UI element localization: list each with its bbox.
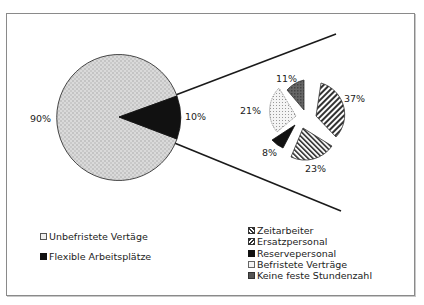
legend-label: Keine feste Stundenzahl bbox=[257, 270, 372, 281]
label-90: 90% bbox=[30, 113, 51, 124]
swatch-icon bbox=[248, 227, 255, 234]
label-11: 11% bbox=[276, 73, 297, 84]
legend-item-befristete: Befristete Verträge bbox=[248, 259, 372, 270]
legend-item-unbefristete: Unbefristete Vertäge bbox=[40, 231, 151, 242]
legend-label: Befristete Verträge bbox=[257, 259, 347, 270]
label-21: 21% bbox=[240, 105, 261, 116]
swatch-icon bbox=[40, 253, 47, 260]
legend-label: Flexible Arbeitsplätze bbox=[49, 251, 151, 262]
legend-item-zeitarbeiter: Zeitarbeiter bbox=[248, 225, 372, 236]
swatch-icon bbox=[40, 233, 47, 240]
legend-item-ersatzpersonal: Ersatzpersonal bbox=[248, 236, 372, 247]
detail-pie bbox=[270, 80, 345, 160]
swatch-icon bbox=[248, 261, 255, 268]
swatch-icon bbox=[248, 250, 255, 257]
connector-line-upper bbox=[173, 34, 336, 96]
legend-label: Reservepersonal bbox=[257, 248, 336, 259]
slice-zeitarbeiter bbox=[316, 83, 345, 137]
label-23: 23% bbox=[305, 163, 326, 174]
legend-label: Zeitarbeiter bbox=[257, 225, 313, 236]
legend-main: Unbefristete Vertäge Flexible Arbeitsplä… bbox=[40, 231, 151, 263]
label-10: 10% bbox=[185, 111, 206, 122]
swatch-icon bbox=[248, 238, 255, 245]
legend-item-keine-feste: Keine feste Stundenzahl bbox=[248, 270, 372, 281]
label-37: 37% bbox=[344, 93, 365, 104]
legend-label: Ersatzpersonal bbox=[257, 236, 327, 247]
legend-item-flexible: Flexible Arbeitsplätze bbox=[40, 251, 151, 262]
slice-ersatzpersonal bbox=[291, 128, 332, 160]
label-8: 8% bbox=[262, 147, 277, 158]
legend-item-reservepersonal: Reservepersonal bbox=[248, 248, 372, 259]
main-pie bbox=[57, 55, 181, 181]
legend-detail: Zeitarbeiter Ersatzpersonal Reserveperso… bbox=[248, 225, 372, 281]
swatch-icon bbox=[248, 272, 255, 279]
legend-label: Unbefristete Vertäge bbox=[49, 231, 148, 242]
